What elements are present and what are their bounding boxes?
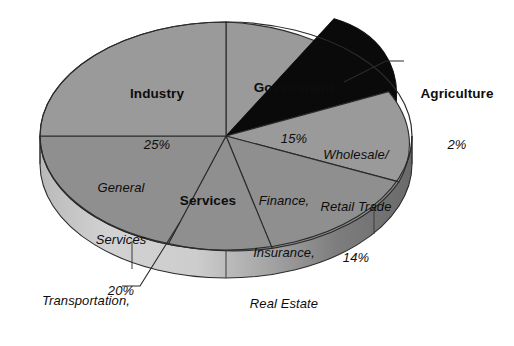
slice-label-agriculture: Agriculture 2% [404, 50, 510, 190]
slice-label-finance-line2: Insurance, [232, 246, 336, 261]
slice-label-agriculture-name: Agriculture [404, 86, 510, 101]
group-label-services: Services [168, 157, 248, 245]
slice-label-transportation-communication-public-utilities: Transportation, Communication, Public Ut… [6, 258, 166, 346]
slice-label-finance-line3: Real Estate [232, 297, 336, 312]
slice-label-industry-name: Industry [92, 86, 222, 101]
slice-label-agriculture-percent: 2% [404, 138, 510, 153]
slice-label-transport-line1: Transportation, [6, 294, 166, 309]
slice-label-general-line2: Services [70, 233, 172, 248]
group-label-services-name: Services [168, 193, 248, 208]
slice-label-government-name: Government [228, 80, 360, 95]
slice-label-general-line1: General [70, 181, 172, 196]
pie-chart-figure: Industry 25% Government 15% Agriculture … [0, 0, 514, 346]
